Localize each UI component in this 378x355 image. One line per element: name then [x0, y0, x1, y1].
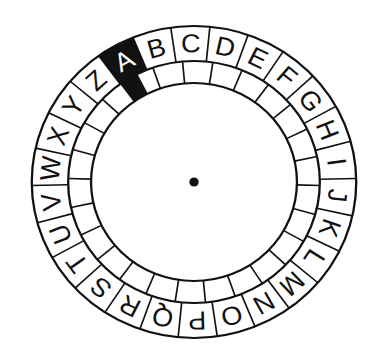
cell-divider	[284, 231, 304, 242]
cell-divider	[183, 62, 185, 84]
letter-d[interactable]: D	[212, 30, 238, 63]
cell-divider	[295, 157, 317, 162]
cell-divider	[81, 225, 102, 235]
cell-divider	[293, 209, 315, 215]
letter-j[interactable]: J	[321, 188, 353, 204]
cell-divider	[287, 129, 308, 139]
cell-divider	[209, 62, 212, 84]
cell-divider	[269, 250, 286, 265]
cell-divider	[250, 265, 262, 283]
letter-p[interactable]: P	[188, 306, 207, 336]
letter-e[interactable]: E	[243, 41, 273, 75]
letter-divider	[36, 148, 72, 156]
letter-i[interactable]: I	[321, 156, 352, 167]
cell-divider	[97, 245, 115, 259]
letter-divider	[320, 178, 356, 179]
letter-c[interactable]: C	[181, 29, 201, 59]
letter-divider	[32, 185, 68, 186]
letter-h[interactable]: H	[310, 116, 346, 144]
letter-w[interactable]: W	[34, 155, 67, 182]
cell-divider	[71, 203, 93, 208]
cell-divider	[297, 185, 320, 186]
letter-v[interactable]: V	[35, 191, 68, 213]
letter-divider	[212, 302, 217, 337]
cell-divider	[73, 150, 95, 156]
cell-divider	[153, 68, 160, 89]
letter-divider	[317, 208, 353, 216]
letter-divider	[178, 302, 182, 337]
letter-r[interactable]: R	[114, 289, 145, 324]
cell-divider	[119, 262, 133, 280]
letter-k[interactable]: K	[312, 215, 347, 241]
letter-divider	[206, 27, 210, 62]
letter-t[interactable]: T	[60, 248, 94, 278]
cell-divider	[255, 84, 269, 102]
cell-divider	[273, 104, 291, 118]
cell-divider	[228, 276, 235, 297]
cell-divider	[146, 273, 155, 293]
cell-divider	[175, 280, 178, 302]
cell-divider	[68, 178, 91, 179]
cell-divider	[102, 99, 119, 114]
letter-n[interactable]: N	[248, 286, 280, 321]
letter-f[interactable]: F	[271, 60, 303, 93]
letter-o[interactable]: O	[218, 299, 246, 333]
cipher-wheel: ABCDEFGHIJKLMNOPQRSTUVWXYZ	[0, 0, 378, 355]
letter-b[interactable]: B	[144, 32, 169, 65]
letter-q[interactable]: Q	[149, 301, 176, 334]
letter-l[interactable]: L	[297, 244, 331, 272]
cell-divider	[233, 70, 242, 90]
center-pin	[189, 178, 198, 187]
letter-divider	[171, 28, 176, 63]
letter-u[interactable]: U	[43, 220, 79, 248]
cell-divider	[203, 281, 205, 303]
letter-x[interactable]: X	[41, 122, 76, 148]
cell-divider	[84, 123, 104, 134]
letter-z[interactable]: Z	[80, 64, 113, 96]
